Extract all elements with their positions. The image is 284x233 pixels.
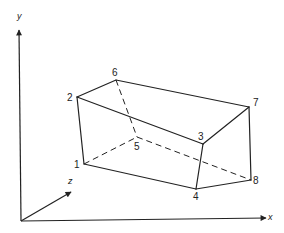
- hidden-edge-1-5: [84, 137, 137, 164]
- vertex-label-4: 4: [193, 191, 199, 202]
- visible-edges: [77, 80, 251, 189]
- edge-1-2: [77, 97, 84, 164]
- edge-2-3: [77, 97, 203, 144]
- z-axis-label: z: [67, 176, 73, 186]
- edge-3-4: [196, 144, 203, 189]
- vertex-label-1: 1: [74, 159, 80, 170]
- vertex-label-5: 5: [134, 141, 140, 152]
- vertex-label-7: 7: [253, 97, 259, 108]
- vertex-label-8: 8: [253, 175, 259, 186]
- edge-1-4: [84, 164, 196, 189]
- z-axis: [21, 192, 71, 221]
- edge-4-8: [196, 180, 251, 189]
- hidden-edges: [84, 80, 251, 180]
- edge-3-7: [203, 107, 249, 144]
- y-axis-label: y: [16, 11, 22, 21]
- hidden-edge-6-5: [116, 80, 137, 137]
- vertex-label-2: 2: [67, 92, 73, 103]
- diagram-canvas: yxz 12345678: [0, 0, 284, 233]
- coordinate-axes: yxz: [16, 11, 273, 222]
- edge-7-8: [249, 107, 251, 180]
- edge-2-6: [77, 80, 116, 97]
- vertex-label-3: 3: [198, 131, 204, 142]
- edge-6-7: [116, 80, 249, 107]
- hidden-edge-5-8: [137, 137, 251, 180]
- vertex-label-6: 6: [112, 67, 118, 78]
- x-axis: [21, 218, 266, 221]
- x-axis-label: x: [267, 212, 273, 222]
- y-axis: [19, 30, 21, 221]
- box-diagram: yxz 12345678: [0, 0, 284, 233]
